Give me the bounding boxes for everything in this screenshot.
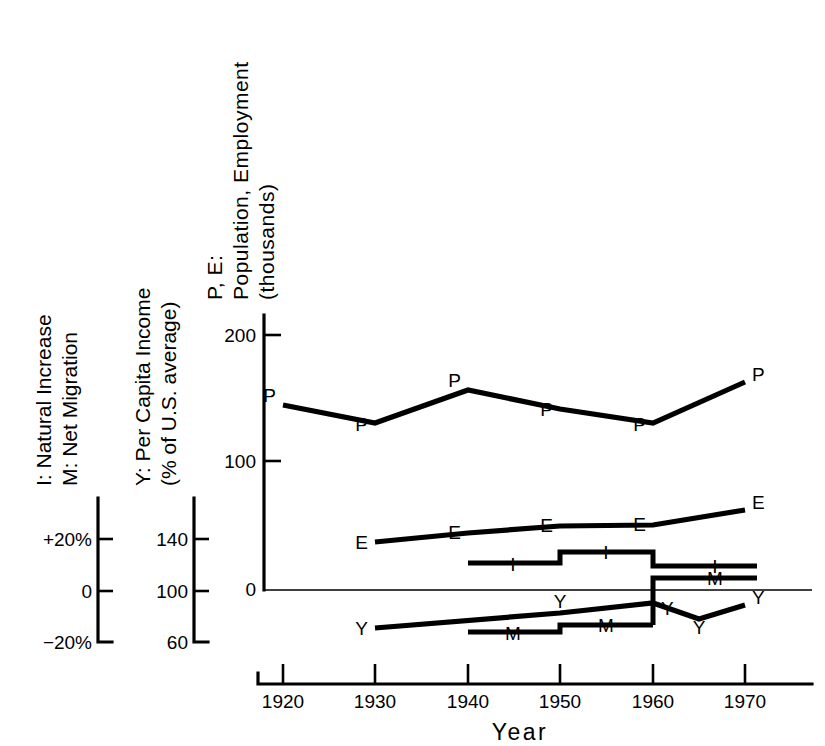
x-ticklabel-1960: 1960 (632, 691, 674, 712)
point-label-P-1960: P (633, 414, 646, 435)
point-label-E-1940: E (448, 522, 461, 543)
y-ticklabel-0: 0 (245, 579, 256, 600)
migration-scale-group: I: Natural Increase M: Net Migration +20… (32, 314, 113, 653)
point-label-Y-1930: Y (355, 618, 368, 639)
point-label-P-1950: P (540, 399, 553, 420)
legend-natural-increase-label: I: Natural Increase (32, 314, 55, 486)
point-label-Y-1960: Y (661, 598, 674, 619)
income-ticklabel-140: 140 (156, 529, 188, 550)
income-scale-axis (194, 498, 208, 642)
point-label-P-1920: P (263, 385, 276, 406)
x-ticklabel-1930: 1930 (354, 691, 396, 712)
migration-ticklabel-plus20: +20% (43, 529, 92, 550)
x-axis-line (258, 673, 812, 684)
migration-ticklabel-minus20: −20% (43, 632, 92, 653)
x-ticklabel-1940: 1940 (447, 691, 489, 712)
point-label-E-1970: E (752, 492, 765, 513)
income-scale-group: Y: Per Capita Income (% of U.S. average)… (131, 288, 209, 653)
point-label-M-1: M (505, 623, 521, 644)
x-axis-group: 1920 1930 1940 1950 1960 1970 Year (258, 664, 812, 745)
x-ticklabel-1970: 1970 (724, 691, 766, 712)
income-ticklabel-100: 100 (156, 581, 188, 602)
series-employment: E E E E E (355, 492, 764, 553)
point-label-P-1940: P (448, 370, 461, 391)
axis-title-line2: Population, Employment (229, 61, 252, 300)
chart-svg: I: Natural Increase M: Net Migration +20… (0, 0, 825, 746)
point-label-I-1: I (510, 554, 515, 575)
point-label-P-1970: P (752, 364, 765, 385)
point-label-I-2: I (603, 542, 608, 563)
x-ticklabel-1920: 1920 (262, 691, 304, 712)
primary-axis-title-group: P, E: Population, Employment (thousands) (203, 61, 278, 300)
point-label-E-1950: E (540, 515, 553, 536)
point-label-M-3: M (707, 568, 723, 589)
point-label-E-1960: E (633, 514, 646, 535)
axis-title-line1: P, E: (203, 255, 226, 300)
series-employment-line (375, 510, 745, 542)
y-ticklabel-200: 200 (224, 325, 256, 346)
series-population-line (283, 382, 745, 423)
migration-scale-axis (98, 498, 112, 642)
axis-title-line3: (thousands) (255, 184, 278, 300)
series-population: P P P P P P (263, 364, 764, 435)
legend-net-migration-label: M: Net Migration (58, 332, 81, 486)
point-label-E-1930: E (355, 532, 368, 553)
x-axis-title: Year (492, 719, 548, 745)
y-axis-group: 200 100 0 (224, 315, 281, 600)
series-net-migration-step-below (468, 625, 653, 632)
income-ticklabel-60: 60 (167, 632, 188, 653)
y-ticklabel-100: 100 (224, 451, 256, 472)
legend-per-capita-income-label: Y: Per Capita Income (131, 288, 154, 486)
x-ticklabel-1950: 1950 (539, 691, 581, 712)
point-label-Y-1965: Y (693, 617, 706, 638)
point-label-Y-1950: Y (554, 591, 567, 612)
point-label-M-2: M (598, 615, 614, 636)
point-label-P-1930: P (355, 414, 368, 435)
point-label-Y-1970: Y (752, 587, 765, 608)
chart-figure: I: Natural Increase M: Net Migration +20… (0, 0, 825, 746)
migration-ticklabel-zero: 0 (81, 581, 92, 602)
legend-percent-us-average-label: (% of U.S. average) (157, 302, 180, 486)
